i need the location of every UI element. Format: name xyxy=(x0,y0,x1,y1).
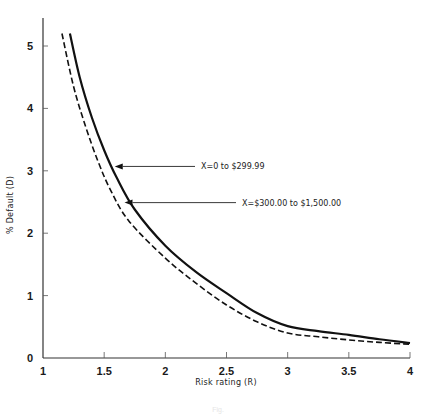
annotation-label-0-to-299: X=0 to $299.99 xyxy=(201,162,264,171)
curve-solid-0-to-299 xyxy=(70,34,410,344)
x-tick-label: 3 xyxy=(285,365,291,377)
y-tick-label: 1 xyxy=(27,290,33,302)
x-tick-label: 1 xyxy=(40,365,46,377)
y-tick-label: 3 xyxy=(27,165,33,177)
figure-caption: Fig. xyxy=(212,406,224,414)
curve-dashed-300-to-1500 xyxy=(62,34,410,345)
x-tick-label: 1.5 xyxy=(97,365,112,377)
x-tick-label: 2 xyxy=(162,365,168,377)
annotation-label-300-to-1500: X=$300.00 to $1,500.00 xyxy=(242,199,341,208)
default-rate-chart: 01234511.522.533.54 X=0 to $299.99X=$300… xyxy=(0,0,430,415)
x-axis-title: Risk rating (R) xyxy=(195,378,257,387)
x-tick-label: 3.5 xyxy=(341,365,356,377)
axes: 01234511.522.533.54 xyxy=(27,18,414,377)
annotations: X=0 to $299.99X=$300.00 to $1,500.00 xyxy=(115,162,341,207)
y-tick-label: 4 xyxy=(27,102,34,114)
y-tick-label: 2 xyxy=(27,227,33,239)
y-tick-label: 0 xyxy=(27,352,33,364)
y-axis-title: % Default (D) xyxy=(6,176,15,234)
x-tick-label: 2.5 xyxy=(219,365,234,377)
arrowhead-icon xyxy=(115,163,123,169)
x-tick-label: 4 xyxy=(407,365,414,377)
curves xyxy=(62,34,410,345)
y-tick-label: 5 xyxy=(27,40,33,52)
